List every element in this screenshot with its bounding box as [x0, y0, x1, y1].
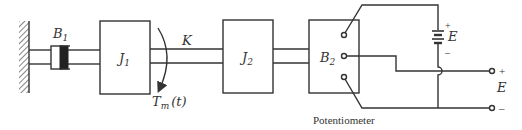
shaft-wall-damper	[29, 50, 51, 64]
system-diagram: B1 J1 K Tm(t) J2 B2	[0, 0, 522, 130]
wire-bottom	[345, 79, 490, 108]
output-minus: –	[498, 102, 505, 114]
shaft-j2-b2	[273, 49, 309, 63]
output-minus-terminal	[490, 106, 495, 111]
wire-wiper	[347, 56, 490, 71]
shaft-k-label: K	[181, 33, 193, 48]
battery-label: E	[447, 29, 458, 44]
potentiometer-caption: Potentiometer	[313, 114, 375, 126]
battery-icon	[432, 31, 444, 43]
output-label: E	[496, 80, 507, 95]
damper-b1	[51, 46, 70, 69]
wire-battery-negative	[438, 44, 442, 108]
output-plus: +	[499, 65, 505, 77]
torque-arrow-icon	[158, 28, 167, 88]
shaft-spring-k	[150, 49, 223, 63]
output-plus-terminal	[490, 69, 495, 74]
ground-wall	[19, 21, 29, 93]
damper-b1-label: B1	[52, 26, 68, 43]
torque-label: Tm(t)	[152, 94, 187, 111]
shaft-damper-j1	[68, 50, 100, 64]
battery-minus: –	[444, 47, 451, 58]
